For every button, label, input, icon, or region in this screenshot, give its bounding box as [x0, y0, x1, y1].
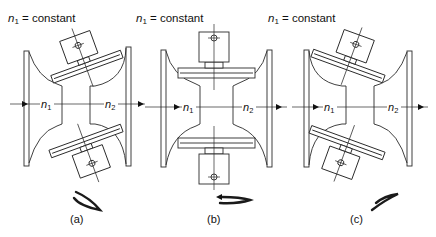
output-disc-plate-c — [407, 51, 412, 166]
input-disc-plate-b — [161, 50, 166, 167]
rotation-arrow-icon-a — [74, 192, 100, 210]
output-arrow-a — [138, 101, 144, 107]
panel-b: n1 = constant n1 n2 — [136, 12, 287, 225]
rotation-arrow-icon-b — [220, 197, 250, 203]
upper-roller-b — [178, 24, 255, 90]
upper-roller-a — [38, 15, 129, 99]
panel-c: n1 = constant n1 n2 — [268, 12, 428, 225]
output-disc-plate-b — [267, 50, 272, 167]
caption-c: (c) — [350, 213, 363, 225]
input-disc-plate-a — [24, 51, 29, 166]
input-arrow-b — [174, 104, 180, 110]
upper-roller-c — [305, 14, 397, 97]
header-c: n1 = constant — [268, 12, 336, 26]
output-arrow-b — [276, 104, 282, 110]
lower-roller-b — [178, 126, 255, 190]
input-disc-plate-c — [304, 50, 309, 167]
output-disc-plate-a — [126, 47, 131, 166]
panel-a: n1 = constant n1 n2 — [8, 12, 145, 225]
toroidal-variator-diagram: n1 = constant n1 n2 — [0, 0, 436, 237]
caption-b: (b) — [207, 213, 220, 225]
diagram-canvas: n1 = constant n1 n2 — [0, 0, 436, 237]
rotation-arrow-icon-c — [372, 194, 398, 210]
input-arrow-c — [313, 104, 319, 110]
output-arrow-c — [418, 104, 424, 110]
header-a: n1 = constant — [8, 12, 76, 26]
header-b: n1 = constant — [136, 12, 204, 26]
caption-a: (a) — [70, 213, 83, 225]
